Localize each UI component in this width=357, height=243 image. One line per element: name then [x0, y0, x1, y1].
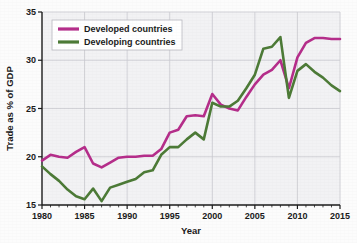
y-tick-label: 30	[26, 55, 36, 65]
x-tick-label: 2005	[245, 211, 265, 221]
x-tick-label: 1990	[117, 211, 137, 221]
x-tick-label: 2000	[202, 211, 222, 221]
y-tick-label: 25	[26, 104, 36, 114]
x-tick-label: 1980	[32, 211, 52, 221]
x-tick-label: 1995	[160, 211, 180, 221]
legend-label: Developed countries	[84, 24, 173, 34]
y-tick-label: 20	[26, 152, 36, 162]
legend-label: Developing countries	[84, 37, 176, 47]
x-tick-label: 2010	[287, 211, 307, 221]
y-tick-label: 15	[26, 200, 36, 210]
x-tick-label: 1985	[75, 211, 95, 221]
y-axis-label: Trade as % of GDP	[4, 66, 15, 151]
figure-container: 1520253035 19801985199019952000200520102…	[0, 0, 357, 243]
y-tick-label: 35	[26, 7, 36, 17]
chart-legend: Developed countriesDeveloping countries	[52, 20, 182, 50]
x-axis-label: Year	[181, 225, 201, 236]
x-tick-label: 2015	[330, 211, 350, 221]
trade-gdp-line-chart: 1520253035 19801985199019952000200520102…	[0, 0, 357, 243]
